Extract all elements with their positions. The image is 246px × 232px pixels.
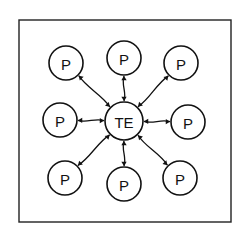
arrowhead-icon bbox=[144, 119, 148, 124]
peripheral-label: P bbox=[55, 113, 65, 130]
connector-bottom-left bbox=[78, 135, 110, 166]
peripheral-node-top: P bbox=[107, 41, 141, 75]
peripheral-label: P bbox=[176, 56, 186, 73]
peripheral-label: P bbox=[119, 177, 129, 194]
arrowhead-icon bbox=[121, 162, 126, 166]
star-network-diagram: TE PPPPPPPP bbox=[0, 0, 246, 232]
arrowhead-icon bbox=[100, 118, 104, 123]
connector-top-right bbox=[138, 76, 168, 107]
peripheral-node-top-left: P bbox=[49, 46, 83, 80]
hub-node: TE bbox=[105, 102, 143, 140]
peripheral-label: P bbox=[60, 171, 70, 188]
hub-label: TE bbox=[114, 114, 133, 131]
peripheral-node-left: P bbox=[43, 103, 77, 137]
connector-top-left bbox=[79, 76, 110, 107]
peripheral-node-top-right: P bbox=[164, 46, 198, 80]
arrowhead-icon bbox=[121, 97, 126, 101]
arrowhead-icon bbox=[121, 76, 126, 80]
arrowhead-icon bbox=[121, 141, 126, 145]
peripheral-node-bottom-left: P bbox=[48, 161, 82, 195]
peripheral-label: P bbox=[183, 115, 193, 132]
arrowhead-icon bbox=[166, 119, 170, 124]
connector-bottom-right bbox=[138, 135, 167, 165]
peripheral-label: P bbox=[61, 56, 71, 73]
peripheral-node-right: P bbox=[171, 105, 205, 139]
peripheral-node-bottom-right: P bbox=[163, 161, 197, 195]
peripheral-label: P bbox=[175, 171, 185, 188]
peripheral-label: P bbox=[119, 51, 129, 68]
arrowhead-icon bbox=[78, 118, 82, 123]
peripheral-node-bottom: P bbox=[107, 167, 141, 201]
